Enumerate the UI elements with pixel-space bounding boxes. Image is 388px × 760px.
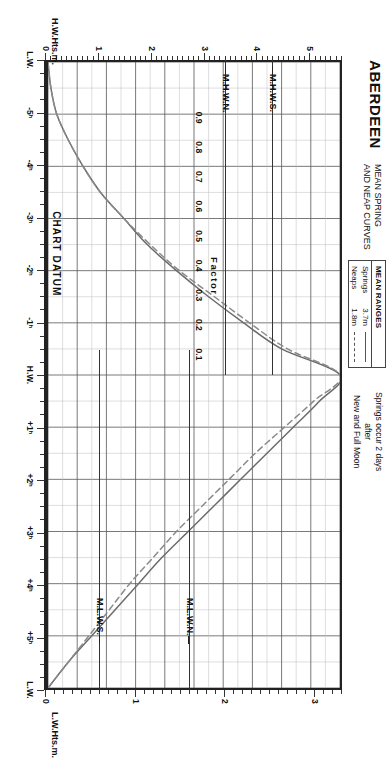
time-tick [37,165,44,166]
height-tick [251,690,252,694]
time-tick [40,611,44,612]
height-tick [269,690,270,694]
time-tick [40,86,44,87]
level-leader-dash [225,66,226,74]
height-tick [153,690,154,694]
time-tick [40,73,44,74]
factor-value-label: 0.7 [194,171,204,183]
height-tick [119,56,120,60]
time-tick [40,336,44,337]
height-tick [162,690,163,694]
height-tick [315,56,316,60]
time-tick [40,454,44,455]
height-tick [262,56,263,60]
height-tick [99,690,100,694]
time-tick [40,441,44,442]
time-tick [40,493,44,494]
time-tick [40,231,44,232]
time-tick [37,638,44,639]
height-tick [45,53,46,60]
time-tick-label: -1ʰ [25,317,35,328]
time-tick [40,401,44,402]
height-tick [278,690,279,694]
height-tick [224,690,225,697]
height-tick [230,56,231,60]
time-tick [40,677,44,678]
height-tick [193,56,194,60]
height-tick [309,53,310,60]
height-tick [283,56,284,60]
factor-value-label: 0.1 [194,349,204,361]
height-tick [77,56,78,60]
springs-timing-note: Springs occur 2 days after New and Full … [351,392,384,471]
height-tick [66,56,67,60]
grid-and-curves [48,62,340,688]
height-tick [256,53,257,60]
height-tick [305,690,306,694]
time-tick [37,585,44,586]
height-tick [126,690,127,694]
time-tick [40,651,44,652]
height-tick [81,690,82,694]
height-tick [219,56,220,60]
level-label-text: M.L.W.S. [95,598,105,635]
height-tick [278,56,279,60]
time-tick-label: L.W. [25,51,35,68]
time-tick [40,414,44,415]
height-tick [82,56,83,60]
time-tick [40,598,44,599]
factor-value-label: 0.3 [194,289,204,301]
height-tick [233,690,234,694]
time-tick [40,506,44,507]
height-tick-label: 2 [220,699,230,704]
chart-area: ABERDEEN MEAN SPRING AND NEAP CURVES MEA… [0,0,388,760]
height-tick [180,690,181,694]
height-tick [124,56,125,60]
time-tick [37,218,44,219]
height-tick [145,56,146,60]
time-tick [40,546,44,547]
time-tick-label: -3ʰ [25,212,35,223]
height-tick [135,690,136,697]
time-tick [37,60,44,61]
height-tick [71,56,72,60]
factor-value-label: 0.2 [194,319,204,331]
time-tick [40,624,44,625]
height-tick [336,56,337,60]
height-tick [98,53,99,60]
time-tick [40,349,44,350]
height-tick [114,56,115,60]
height-tick [287,690,288,694]
time-tick [40,519,44,520]
time-tick [40,204,44,205]
height-tick [117,690,118,694]
height-tick [140,56,141,60]
factor-value-label: 0.9 [194,112,204,124]
height-tick [188,56,189,60]
time-tick [40,244,44,245]
level-leader-dash [99,635,100,643]
factor-value-label: 0.5 [194,230,204,242]
factor-axis-label: Factor [209,257,220,296]
time-tick-label: -5ʰ [25,107,35,118]
time-tick-label: +2ʰ [25,474,35,487]
height-tick [246,56,247,60]
left-axis-title: H.W.Hts.m. [50,18,60,65]
height-tick [171,690,172,694]
height-tick [177,56,178,60]
height-tick [214,56,215,60]
height-tick [341,56,342,60]
legend-springs-value: 3.7m [361,300,370,326]
height-tick [172,56,173,60]
time-tick-label: -4ʰ [25,160,35,171]
time-tick-label: -2ʰ [25,265,35,276]
title-block: ABERDEEN MEAN SPRING AND NEAP CURVES MEA… [342,60,388,690]
height-tick [330,56,331,60]
level-label: M.H.W.S. [268,66,278,112]
height-tick [209,56,210,60]
height-tick [304,56,305,60]
right-axis-title: L.W.Hts.m. [50,712,60,758]
time-tick [40,664,44,665]
height-tick [182,56,183,60]
height-tick [341,690,342,694]
